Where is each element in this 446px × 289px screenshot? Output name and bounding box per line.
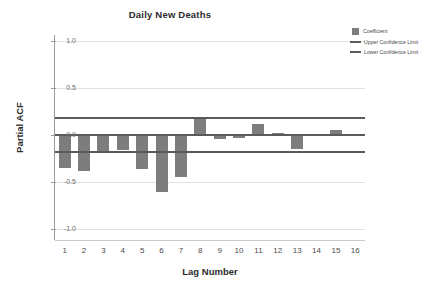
- lower-confidence-line-swatch-icon: [350, 51, 361, 53]
- x-axis-tick-label: 8: [190, 246, 210, 255]
- bar: [117, 135, 129, 150]
- bar: [194, 118, 206, 135]
- x-axis-tick-label: 16: [345, 246, 365, 255]
- x-axis-tick-label: 12: [268, 246, 288, 255]
- x-axis-tick-label: 1: [55, 246, 75, 255]
- legend-item-label: Lower Confidence Limit: [364, 49, 418, 55]
- legend-item-label: Upper Confidence Limit: [364, 39, 418, 45]
- gridline: [55, 229, 365, 230]
- x-axis-tick-label: 2: [74, 246, 94, 255]
- x-axis-tick-label: 11: [248, 246, 268, 255]
- legend-item-lower-confidence-limit: Lower Confidence Limit: [352, 48, 446, 56]
- x-axis-title: Lag Number: [55, 266, 365, 277]
- x-axis-tick-label: 10: [229, 246, 249, 255]
- upper-confidence-line-swatch-icon: [350, 41, 361, 43]
- x-axis-tick-label: 4: [113, 246, 133, 255]
- bar: [156, 135, 168, 192]
- x-axis-tick-label: 5: [132, 246, 152, 255]
- chart-legend: Coefficient Upper Confidence Limit Lower…: [352, 27, 446, 59]
- upper-confidence-limit-line: [55, 117, 365, 119]
- bar: [291, 135, 303, 149]
- lower-confidence-limit-line: [55, 151, 365, 153]
- x-axis-tick-label: 6: [152, 246, 172, 255]
- coefficient-swatch-icon: [352, 28, 359, 35]
- x-axis-tick-label: 13: [287, 246, 307, 255]
- bar: [175, 135, 187, 177]
- y-axis-tick-label: 1.0: [48, 37, 76, 44]
- pacf-chart-figure: Daily New Deaths Partial ACF Lag Number …: [0, 0, 446, 289]
- x-axis-tick-label: 9: [210, 246, 230, 255]
- x-axis-tick-label: 14: [307, 246, 327, 255]
- y-axis-tick-label: -0.5: [48, 178, 76, 185]
- x-axis-tick-label: 15: [326, 246, 346, 255]
- legend-item-upper-confidence-limit: Upper Confidence Limit: [352, 38, 446, 46]
- plot-area: [55, 41, 365, 229]
- x-axis-tick-label: 3: [93, 246, 113, 255]
- y-axis-tick-label: -1.0: [48, 225, 76, 232]
- chart-title: Daily New Deaths: [0, 9, 340, 20]
- y-axis-title: Partial ACF: [14, 83, 25, 173]
- zero-line: [55, 134, 365, 136]
- x-axis-line: [55, 240, 365, 241]
- x-axis-tick-label: 7: [171, 246, 191, 255]
- y-axis-tick-label: 0.0: [48, 131, 76, 138]
- legend-item-coefficient: Coefficient: [352, 27, 446, 35]
- y-axis-tick-label: 0.5: [48, 84, 76, 91]
- legend-item-label: Coefficient: [363, 28, 387, 34]
